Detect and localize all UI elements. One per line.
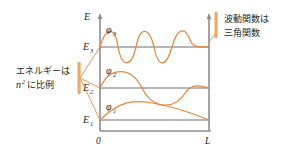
y-axis-label: E [83,11,90,22]
wavefunction-label-2-letter: φ [106,65,112,76]
wavefunction-label-1-subscript: 1 [113,107,116,114]
left-annotation-line2-math: n [16,79,21,90]
right-annotation-line2: 三角関数 [224,27,260,38]
energy-label-1-subscript: 1 [90,120,93,127]
wavefunction-label-2: φ 2 [106,65,117,78]
wavefunction-label-1-letter: φ [106,101,112,112]
left-annotation-line1: エネルギーは [16,66,70,76]
right-annotation-text: 波動関数は 三角関数 [224,13,269,38]
energy-label-3-subscript: 3 [89,47,94,54]
wavefunction-label-3: φ 3 [106,24,117,37]
y-axis [98,13,103,131]
energy-label-1: E 1 [82,114,93,127]
x-end-label: L [204,136,210,146]
wavefunction-label-1: φ 1 [106,101,116,114]
energy-label-3: E 3 [82,41,94,54]
x-origin-label: 0 [96,136,101,146]
energy-label-1-letter: E [82,114,89,125]
right-annotation-line1: 波動関数は [224,13,269,24]
energy-level-diagram: E 0 L E 3 E 2 E 1 φ 3 φ 2 φ 1 [0,0,283,157]
wavefunction-curve-1 [100,102,209,120]
wavefunction-label-3-letter: φ [106,24,112,35]
left-annotation-line2-superscript: 2 [22,78,26,85]
left-annotation-line2-rest: に比例 [27,79,54,90]
left-annotation-text: エネルギーは n 2 に比例 [16,66,70,90]
box-right-wall [207,13,212,131]
energy-label-2-subscript: 2 [90,88,94,95]
figure-canvas: E 0 L E 3 E 2 E 1 φ 3 φ 2 φ 1 [0,0,283,157]
wavefunction-label-3-subscript: 3 [112,30,117,37]
energy-label-3-letter: E [82,41,89,52]
